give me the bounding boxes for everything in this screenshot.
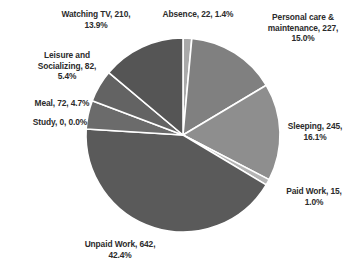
slice-label-meal: Meal, 72, 4.7% — [6, 98, 118, 109]
slice-label-paid-work: Paid Work, 15, 1.0% — [270, 186, 358, 207]
slice-label-sleeping: Sleeping, 245, 16.1% — [272, 121, 358, 142]
slice-label-personal-care: Personal care & maintenance, 227, 15.0% — [248, 12, 358, 44]
slice-label-absence: Absence, 22, 1.4% — [146, 9, 250, 20]
pie-chart-figure: Watching TV, 210, 13.9% Absence, 22, 1.4… — [0, 0, 360, 275]
slice-label-unpaid-work: Unpaid Work, 642, 42.4% — [52, 239, 188, 260]
slice-label-watching-tv: Watching TV, 210, 13.9% — [44, 9, 148, 30]
slice-label-study: Study, 0, 0.0% — [4, 117, 116, 128]
slice-label-leisure-and-socializing: Leisure and Socializing, 82, 5.4% — [16, 50, 118, 82]
